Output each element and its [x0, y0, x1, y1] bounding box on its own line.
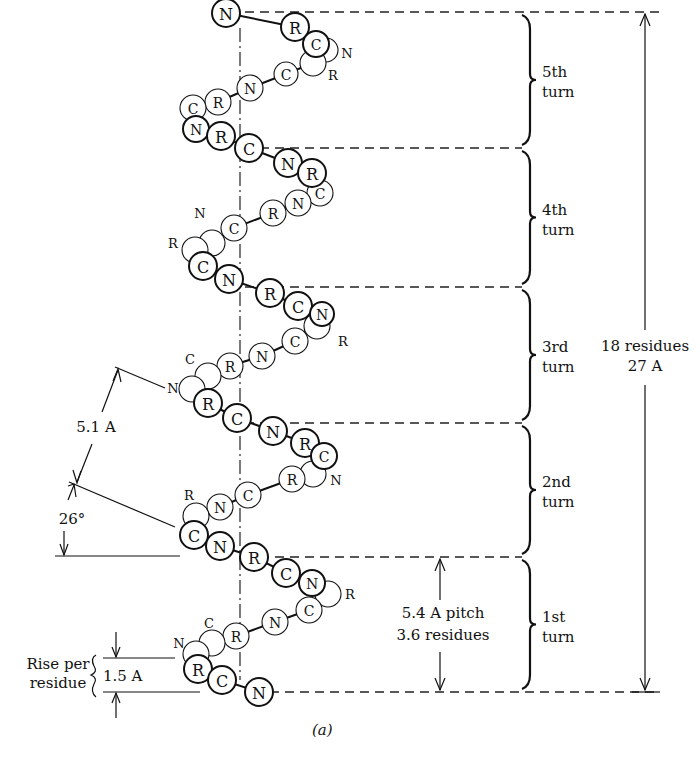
atom-R: R — [256, 279, 284, 307]
svg-text:C: C — [290, 334, 301, 350]
turn-label: 3rd — [542, 338, 569, 356]
helix-svg: 5thturn4thturn3rdturn2ndturn1stturn CNRC… — [0, 0, 700, 757]
turn-brace — [522, 290, 536, 420]
svg-text:C: C — [229, 221, 240, 237]
svg-text:R: R — [231, 629, 242, 645]
svg-text:N: N — [190, 122, 202, 138]
total-residues-label: 18 residues — [601, 337, 689, 355]
atom-R: R — [279, 466, 305, 492]
atom-C: C — [282, 328, 308, 354]
turn-label: turn — [542, 83, 575, 101]
atom-C: C — [272, 559, 300, 587]
total-length-label: 27 A — [628, 357, 663, 375]
atom-N: N — [285, 190, 311, 216]
rise-label-line2: residue — [30, 674, 87, 692]
spacing-angle-dimension: 5.1 A 26° — [55, 367, 180, 556]
turn-label: turn — [542, 628, 575, 646]
atom-C: C — [235, 134, 263, 162]
svg-text:N: N — [244, 81, 256, 97]
svg-text:C: C — [243, 140, 255, 159]
svg-text:R: R — [225, 359, 236, 375]
svg-text:C: C — [231, 410, 243, 429]
turn-brace — [522, 15, 536, 145]
svg-text:N: N — [252, 684, 266, 703]
side-label: N — [167, 381, 178, 396]
atom-N: N — [207, 494, 233, 520]
svg-text:N: N — [292, 196, 304, 212]
svg-text:N: N — [306, 576, 318, 592]
svg-text:C: C — [304, 603, 315, 619]
atom-R: R — [223, 623, 249, 649]
side-label: C — [204, 616, 214, 631]
svg-text:R: R — [213, 95, 224, 111]
side-label: N — [330, 473, 341, 488]
svg-text:R: R — [248, 549, 261, 568]
svg-text:N: N — [219, 5, 233, 24]
svg-text:C: C — [280, 565, 292, 584]
side-label: R — [184, 488, 195, 503]
svg-text:R: R — [215, 128, 228, 147]
rise-value-label: 1.5 A — [103, 667, 143, 685]
spacing-label: 5.1 A — [76, 418, 116, 436]
svg-text:C: C — [188, 101, 199, 117]
atom-R: R — [207, 122, 235, 150]
atom-C: C — [311, 443, 337, 469]
atom-R: R — [194, 389, 222, 417]
atom-C: C — [274, 62, 298, 86]
side-label: R — [345, 587, 356, 602]
side-label: R — [168, 236, 179, 251]
side-label: N — [341, 46, 352, 61]
angle-label: 26° — [59, 510, 86, 528]
atom-N: N — [262, 609, 288, 635]
atom-C: C — [180, 521, 208, 549]
side-label: R — [338, 334, 349, 349]
atom-N: N — [237, 75, 263, 101]
atom-C: C — [284, 292, 312, 320]
atom-R: R — [205, 89, 231, 115]
svg-text:N: N — [213, 538, 227, 557]
svg-text:C: C — [292, 298, 304, 317]
svg-text:N: N — [316, 307, 328, 323]
svg-text:R: R — [299, 435, 312, 454]
atom-R: R — [260, 200, 286, 226]
rise-label-line1: Rise per — [26, 655, 90, 673]
side-label: C — [185, 352, 195, 367]
alpha-helix-diagram: 5thturn4thturn3rdturn2ndturn1stturn CNRC… — [0, 0, 700, 757]
total-height-dimension: 18 residues 27 A — [601, 14, 689, 692]
atom-R: R — [240, 543, 268, 571]
svg-text:N: N — [256, 349, 268, 365]
turn-label: turn — [542, 221, 575, 239]
svg-text:C: C — [197, 258, 209, 277]
svg-text:C: C — [243, 488, 254, 504]
svg-text:R: R — [268, 206, 279, 222]
svg-text:N: N — [222, 271, 236, 290]
atom-N: N — [245, 678, 273, 706]
turn-label: turn — [542, 493, 575, 511]
svg-text:R: R — [287, 472, 298, 488]
svg-text:C: C — [315, 186, 326, 202]
svg-text:C: C — [311, 37, 322, 53]
svg-text:N: N — [281, 155, 295, 174]
svg-text:R: R — [264, 285, 277, 304]
turn-brace — [522, 151, 536, 284]
turn-label: 1st — [542, 608, 565, 626]
atom-C: C — [223, 404, 251, 432]
atom-N: N — [310, 302, 334, 326]
svg-text:R: R — [289, 19, 302, 38]
svg-text:N: N — [266, 423, 280, 442]
svg-text:C: C — [216, 672, 228, 691]
pitch-label: 5.4 A pitch — [402, 604, 485, 622]
turn-brace — [522, 560, 536, 689]
atom-N: N — [212, 0, 240, 27]
svg-text:C: C — [188, 527, 200, 546]
svg-text:N: N — [214, 500, 226, 516]
side-label: N — [173, 636, 184, 651]
figure-caption: (a) — [312, 721, 333, 739]
atom-N: N — [299, 570, 325, 596]
turn-label: 4th — [542, 201, 568, 219]
atom-C: C — [235, 482, 261, 508]
turn-label: turn — [542, 358, 575, 376]
atom-N: N — [259, 417, 287, 445]
pitch-dimension: 5.4 A pitch 3.6 residues — [396, 559, 489, 690]
svg-text:C: C — [319, 449, 330, 465]
